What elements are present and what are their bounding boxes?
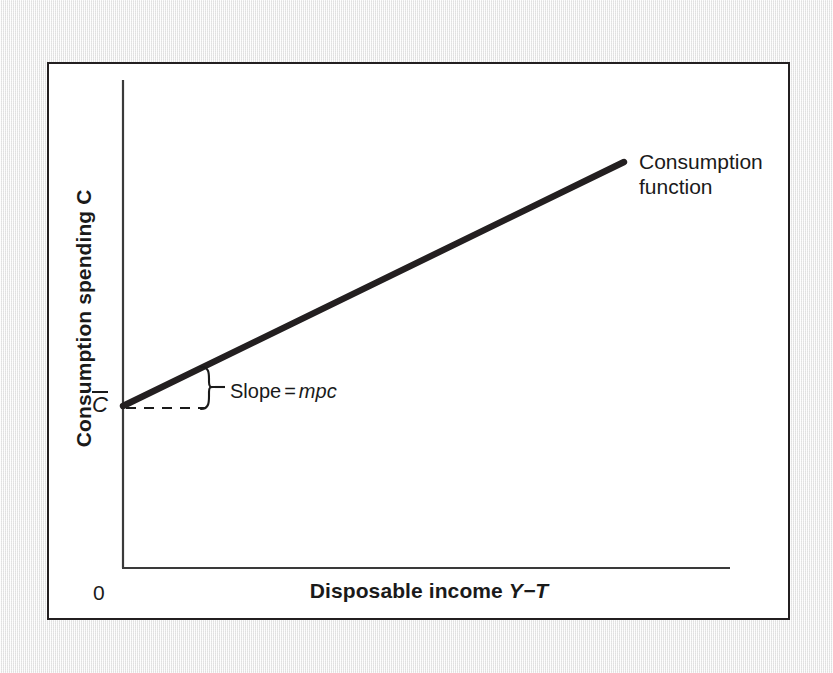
consumption-function-line xyxy=(123,162,624,406)
curve-callout-line2: function xyxy=(639,175,763,200)
origin-label: 0 xyxy=(93,582,105,605)
slope-annotation-static: Slope xyxy=(230,380,281,402)
x-axis-title-variable: Y−T xyxy=(509,579,548,602)
figure-frame: Consumption spending C Disposable income… xyxy=(47,62,790,620)
slope-brace-icon xyxy=(201,367,215,409)
plot-area: Consumption spending C Disposable income… xyxy=(49,64,792,622)
y-axis-title: Consumption spending C xyxy=(73,83,96,553)
equals-sign: = xyxy=(281,380,299,402)
curve-callout-label: Consumption function xyxy=(639,150,763,200)
intercept-label-text: C xyxy=(92,391,108,416)
slope-annotation: Slope=mpc xyxy=(230,381,337,403)
figure-root: Consumption spending C Disposable income… xyxy=(0,0,833,673)
x-axis-title-static: Disposable income xyxy=(310,579,509,602)
curve-callout-line1: Consumption xyxy=(639,150,763,175)
intercept-label: C xyxy=(92,391,108,417)
x-axis-title: Disposable income Y−T xyxy=(199,580,659,603)
consumption-function-plot xyxy=(49,64,792,622)
slope-annotation-variable: mpc xyxy=(299,380,337,402)
